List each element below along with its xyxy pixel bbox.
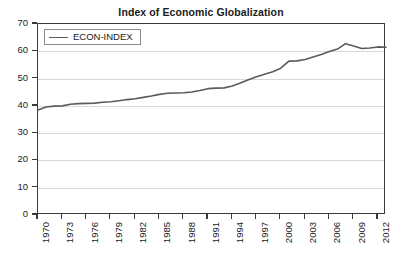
y-axis-label: 50 bbox=[4, 73, 28, 82]
x-axis-label: 1982 bbox=[138, 222, 148, 243]
x-axis-tick bbox=[85, 214, 86, 219]
chart-title: Index of Economic Globalization bbox=[0, 6, 402, 18]
x-axis-label: 1976 bbox=[90, 222, 100, 243]
x-axis-tick bbox=[279, 214, 280, 219]
y-axis-tick bbox=[32, 50, 37, 51]
x-axis-tick bbox=[134, 214, 135, 219]
x-axis-label: 1979 bbox=[114, 222, 124, 243]
series-econ-index bbox=[38, 24, 386, 215]
y-axis-tick bbox=[32, 22, 37, 23]
plot-area bbox=[37, 23, 385, 214]
legend-line-icon bbox=[49, 37, 68, 38]
x-axis-tick bbox=[36, 214, 37, 219]
x-axis-tick bbox=[352, 214, 353, 219]
y-axis-tick bbox=[32, 132, 37, 133]
y-axis-tick bbox=[32, 104, 37, 105]
x-axis-label: 2003 bbox=[308, 222, 318, 243]
y-axis-label: 0 bbox=[4, 209, 28, 218]
x-axis-label: 2009 bbox=[357, 222, 367, 243]
y-axis-label: 60 bbox=[4, 45, 28, 54]
y-axis-tick bbox=[32, 77, 37, 78]
y-axis-label: 70 bbox=[4, 18, 28, 27]
chart-screenshot: Index of Economic Globalization 70605040… bbox=[0, 0, 402, 262]
x-axis-label: 1985 bbox=[162, 222, 172, 243]
x-axis-tick bbox=[206, 214, 207, 219]
x-axis-label: 2000 bbox=[284, 222, 294, 243]
legend-label-econ-index: ECON-INDEX bbox=[73, 32, 133, 42]
x-axis-tick bbox=[231, 214, 232, 219]
x-axis-label: 1973 bbox=[65, 222, 75, 243]
x-axis-tick bbox=[109, 214, 110, 219]
x-axis-label: 2012 bbox=[381, 222, 391, 243]
x-axis-label: 2006 bbox=[332, 222, 342, 243]
y-axis-tick bbox=[32, 186, 37, 187]
x-axis-label: 1970 bbox=[41, 222, 51, 243]
y-axis-tick bbox=[32, 159, 37, 160]
x-axis-tick bbox=[304, 214, 305, 219]
x-axis-tick bbox=[328, 214, 329, 219]
x-axis-tick bbox=[255, 214, 256, 219]
y-axis-label: 10 bbox=[4, 182, 28, 191]
x-axis-label: 1988 bbox=[187, 222, 197, 243]
y-axis-label: 30 bbox=[4, 127, 28, 136]
x-axis-tick bbox=[61, 214, 62, 219]
series-line bbox=[38, 44, 386, 110]
y-axis-label: 40 bbox=[4, 100, 28, 109]
x-axis-tick bbox=[158, 214, 159, 219]
x-axis-label: 1994 bbox=[235, 222, 245, 243]
x-axis-label: 1997 bbox=[260, 222, 270, 243]
y-axis-label: 20 bbox=[4, 154, 28, 163]
x-axis-label: 1991 bbox=[211, 222, 221, 243]
legend: ECON-INDEX bbox=[44, 29, 141, 45]
x-axis-tick bbox=[376, 214, 377, 219]
x-axis-tick bbox=[182, 214, 183, 219]
